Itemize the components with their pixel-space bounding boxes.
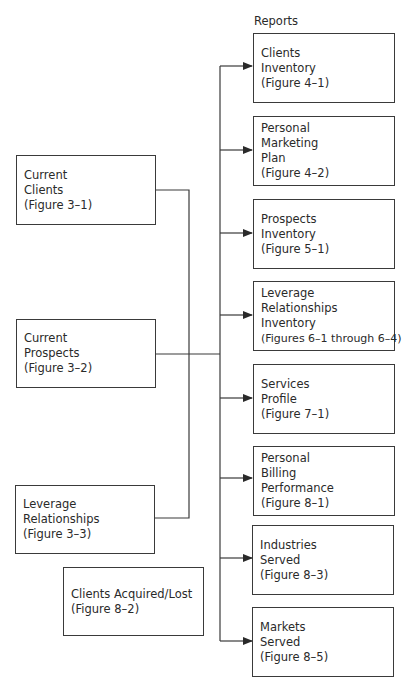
box-line: Prospects <box>261 212 394 227</box>
box-line: Profile <box>261 392 394 407</box>
box-line: Clients <box>261 46 394 61</box>
box-line: (Figure 5–1) <box>261 242 394 257</box>
source-box-current-prospects: Current Prospects (Figure 3–2) <box>16 319 156 388</box>
report-box-clients-inventory: Clients Inventory (Figure 4–1) <box>253 33 395 103</box>
box-line: Marketing <box>261 136 394 151</box>
box-line: (Figure 3–2) <box>24 361 155 376</box>
box-line: (Figure 8–5) <box>260 650 393 665</box>
box-line: Prospects <box>24 346 155 361</box>
box-line: Markets <box>260 620 393 635</box>
box-line: Relationships <box>261 301 394 316</box>
box-line: Inventory <box>261 316 394 331</box>
box-line: Inventory <box>261 61 394 76</box>
box-line: (Figure 3–3) <box>23 527 154 542</box>
box-line: Billing <box>261 466 394 481</box>
box-line: Plan <box>261 151 394 166</box>
box-line: Leverage <box>23 497 154 512</box>
report-box-personal-marketing-plan: Personal Marketing Plan (Figure 4–2) <box>253 116 395 186</box>
box-line: Clients Acquired/Lost <box>71 587 203 602</box>
source-box-leverage-relationships: Leverage Relationships (Figure 3–3) <box>15 485 155 554</box>
box-line: (Figure 3–1) <box>24 198 155 213</box>
box-line: Personal <box>261 121 394 136</box>
box-line: (Figures 6–1 through 6–4) <box>261 331 394 346</box>
box-line: (Figure 4–1) <box>261 76 394 91</box>
box-line: (Figure 8–1) <box>261 496 394 511</box>
box-line: Current <box>24 331 155 346</box>
standalone-box-clients-acquired-lost: Clients Acquired/Lost (Figure 8–2) <box>63 567 204 636</box>
report-box-markets-served: Markets Served (Figure 8–5) <box>252 607 394 677</box>
box-line: Personal <box>261 451 394 466</box>
box-line: Relationships <box>23 512 154 527</box>
box-line: Inventory <box>261 227 394 242</box>
box-line: Industries <box>260 538 393 553</box>
box-line: Leverage <box>261 286 394 301</box>
box-line: Current <box>24 168 155 183</box>
box-line: Performance <box>261 481 394 496</box>
reports-heading: Reports <box>254 14 298 28</box>
report-box-prospects-inventory: Prospects Inventory (Figure 5–1) <box>253 199 395 269</box>
report-box-services-profile: Services Profile (Figure 7–1) <box>253 364 395 434</box>
box-line: Services <box>261 377 394 392</box>
box-line: (Figure 8–2) <box>71 602 203 617</box>
box-line: Clients <box>24 183 155 198</box>
box-line: Served <box>260 553 393 568</box>
box-line: Served <box>260 635 393 650</box>
box-line: (Figure 8–3) <box>260 568 393 583</box>
box-line: (Figure 7–1) <box>261 407 394 422</box>
report-box-industries-served: Industries Served (Figure 8–3) <box>252 525 394 595</box>
report-box-personal-billing-performance: Personal Billing Performance (Figure 8–1… <box>253 446 395 516</box>
source-box-current-clients: Current Clients (Figure 3–1) <box>16 155 156 225</box>
report-box-leverage-relationships-inventory: Leverage Relationships Inventory (Figure… <box>253 281 395 351</box>
box-line: (Figure 4–2) <box>261 166 394 181</box>
